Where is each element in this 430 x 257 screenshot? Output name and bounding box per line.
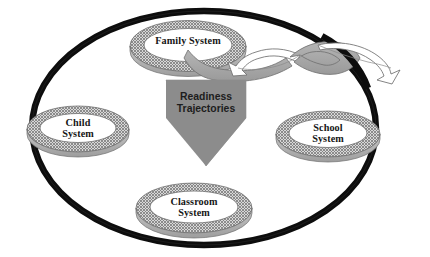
ecological-systems-diagram: Family System Child System School System… [0,0,430,257]
diagram-canvas [0,0,430,257]
node-school-system [276,111,380,162]
node-family-system [130,21,246,77]
node-child-system [27,106,129,157]
node-classroom-system [136,183,252,238]
